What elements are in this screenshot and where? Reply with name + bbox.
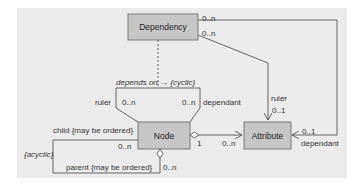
constraint-acyclic: {acyclic} xyxy=(24,150,54,159)
class-attribute-name: Attribute xyxy=(252,131,284,141)
uml-class-diagram: Dependency Node Attribute 0..n 0..n rule… xyxy=(0,0,364,185)
class-node[interactable]: Node xyxy=(138,122,190,149)
role-attribute-ruler: ruler xyxy=(271,94,287,103)
mult-node-dependant: 0..n xyxy=(182,98,195,107)
mult-attribute-ruler: 0..1 xyxy=(272,106,286,115)
role-node-parent: parent {may be ordered} xyxy=(66,163,153,172)
class-dependency-name: Dependency xyxy=(139,22,187,32)
mult-dependency-dependant: 0..n xyxy=(202,14,215,23)
role-attribute-dependant: dependant xyxy=(301,139,340,148)
class-node-name: Node xyxy=(154,131,175,141)
mult-dependency-ruler: 0..n xyxy=(202,29,215,38)
mult-node-child: 0..n xyxy=(118,142,131,151)
class-dependency[interactable]: Dependency xyxy=(128,14,198,40)
role-node-dependant: dependant xyxy=(203,98,242,107)
role-node-child: child {may be ordered} xyxy=(53,126,133,135)
label-depends-on: depends on → {cyclic} xyxy=(116,78,195,87)
mult-node-aggregate: 1 xyxy=(197,139,202,148)
mult-attribute-from-node: 0..n xyxy=(222,139,235,148)
mult-node-parent: 0..n xyxy=(163,163,176,172)
class-attribute[interactable]: Attribute xyxy=(244,122,291,149)
role-node-ruler: ruler xyxy=(95,98,111,107)
mult-node-ruler: 0..n xyxy=(122,98,135,107)
mult-attribute-dependant: 0..1 xyxy=(302,127,316,136)
